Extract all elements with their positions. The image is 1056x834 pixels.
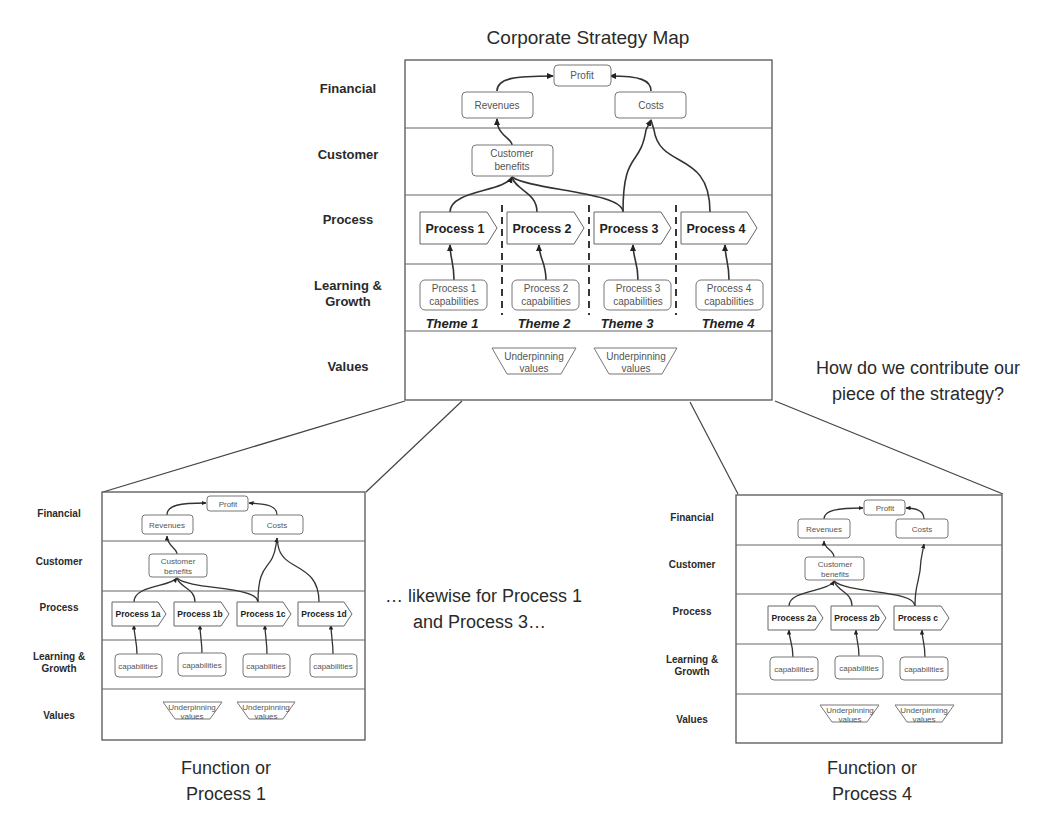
row-label-growth: Growth (675, 666, 710, 677)
zoom-line-left-inner (366, 401, 462, 492)
node-benefits-line1: Customer (490, 148, 534, 159)
node-costs-label: Costs (912, 525, 932, 534)
capability-3-line1: Process 3 (616, 283, 661, 294)
caption-line1: Function or (181, 758, 271, 778)
row-label-process: Process (323, 212, 374, 227)
capability-1a-label: capabilities (118, 662, 158, 671)
zoom-line-right-outer (775, 401, 1003, 494)
node-benefits-line2: benefits (821, 570, 849, 579)
capability-2a-label: capabilities (774, 665, 814, 674)
process-2-label: Process 2 (512, 222, 571, 236)
row-label-values: Values (676, 714, 708, 725)
node-profit-label: Profit (219, 500, 238, 509)
row-label-growth: Growth (42, 663, 77, 674)
row-label-process: Process (40, 602, 79, 613)
process-1d-label: Process 1d (301, 609, 346, 619)
node-revenues-label: Revenues (806, 525, 842, 534)
sub-map-process-4: Financial Customer Process Learning & Gr… (666, 495, 1002, 804)
capability-c-label: capabilities (904, 665, 944, 674)
zoom-line-left-outer (103, 401, 405, 492)
values-1-line1: Underpinning (168, 703, 216, 712)
capability-1d-label: capabilities (313, 662, 353, 671)
row-label-customer: Customer (36, 556, 83, 567)
capability-4-line1: Process 4 (707, 283, 752, 294)
strategy-map-diagram: Corporate Strategy Map Financial Custome… (0, 0, 1056, 834)
caption-line1: Function or (827, 758, 917, 778)
capability-4-line2: capabilities (704, 296, 753, 307)
node-benefits-line2: benefits (494, 161, 529, 172)
capability-1-line2: capabilities (429, 296, 478, 307)
values-1-line2: values (838, 715, 861, 724)
zoom-connectors (103, 401, 1003, 494)
capability-2b-label: capabilities (839, 664, 879, 673)
capability-1b-label: capabilities (182, 661, 222, 670)
values-2-line1: Underpinning (606, 351, 666, 362)
capability-2-line2: capabilities (521, 296, 570, 307)
values-2-line2: values (912, 715, 935, 724)
capability-1-line1: Process 1 (432, 283, 477, 294)
row-label-financial: Financial (670, 512, 714, 523)
row-label-process: Process (673, 606, 712, 617)
row-label-financial: Financial (37, 508, 81, 519)
node-costs-label: Costs (267, 521, 287, 530)
row-label-learning: Learning & (33, 651, 85, 662)
values-2-line2: values (622, 363, 651, 374)
process-4-label: Process 4 (686, 222, 745, 236)
question-line2: piece of the strategy? (832, 384, 1004, 404)
process-2b-label: Process 2b (834, 613, 879, 623)
row-label-values: Values (327, 359, 368, 374)
node-benefits-line1: Customer (161, 557, 196, 566)
caption-line2: Process 1 (186, 784, 266, 804)
node-benefits-line2: benefits (164, 567, 192, 576)
sub-map-process-1: Financial Customer Process Learning & Gr… (33, 492, 365, 804)
capability-1c-label: capabilities (246, 662, 286, 671)
row-label-learning: Learning & (666, 654, 718, 665)
theme-4-label: Theme 4 (702, 316, 756, 331)
row-label-learning: Learning & (314, 278, 382, 293)
node-revenues-label: Revenues (474, 100, 519, 111)
row-label-customer: Customer (318, 147, 379, 162)
theme-3-label: Theme 3 (601, 316, 655, 331)
values-1-line1: Underpinning (826, 706, 874, 715)
process-3-label: Process 3 (599, 222, 658, 236)
node-profit-label: Profit (876, 504, 895, 513)
row-label-financial: Financial (320, 81, 376, 96)
values-2-line2: values (254, 712, 277, 721)
diagram-title: Corporate Strategy Map (487, 27, 690, 48)
node-costs-label: Costs (638, 100, 664, 111)
theme-1-label: Theme 1 (426, 316, 479, 331)
node-benefits-line1: Customer (818, 560, 853, 569)
main-strategy-map: Financial Customer Process Learning & Gr… (314, 60, 772, 400)
likewise-line1: … likewise for Process 1 (385, 586, 582, 606)
row-label-values: Values (43, 710, 75, 721)
process-1a-label: Process 1a (116, 609, 161, 619)
row-label-customer: Customer (669, 559, 716, 570)
capability-2-line1: Process 2 (524, 283, 569, 294)
process-2a-label: Process 2a (772, 613, 817, 623)
capability-3-line2: capabilities (613, 296, 662, 307)
caption-line2: Process 4 (832, 784, 912, 804)
question-line1: How do we contribute our (816, 358, 1020, 378)
node-profit-label: Profit (570, 70, 594, 81)
values-2-line1: Underpinning (242, 703, 290, 712)
process-1b-label: Process 1b (177, 609, 222, 619)
theme-2-label: Theme 2 (518, 316, 572, 331)
process-c-label: Process c (898, 613, 938, 623)
values-1-line2: values (180, 712, 203, 721)
row-label-growth: Growth (325, 294, 371, 309)
values-1-line1: Underpinning (504, 351, 564, 362)
zoom-line-right-inner (690, 402, 738, 494)
process-1-label: Process 1 (425, 222, 484, 236)
values-2-line1: Underpinning (900, 706, 948, 715)
likewise-line2: and Process 3… (413, 612, 546, 632)
process-1c-label: Process 1c (241, 609, 286, 619)
values-1-line2: values (520, 363, 549, 374)
node-revenues-label: Revenues (149, 521, 185, 530)
